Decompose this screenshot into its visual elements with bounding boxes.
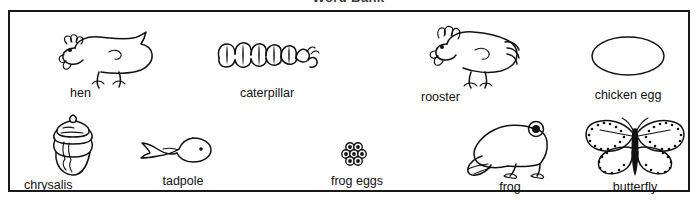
butterfly-icon [570,116,697,180]
word-bank-item-rooster[interactable]: rooster [405,22,545,108]
tadpole-icon [118,130,248,168]
word-bank-worksheet: Word Bank [0,0,697,202]
word-bank-box: hen [8,10,690,192]
word-bank-item-butterfly[interactable]: butterfly [570,116,697,200]
frog-eggs-icon [292,142,422,168]
chrysalis-icon [18,112,128,178]
word-bank-label-chicken-egg: chicken egg [558,88,697,102]
chicken-egg-icon [558,34,697,78]
word-bank-label-frog-eggs: frog eggs [292,174,422,188]
word-bank-item-chicken-egg[interactable]: chicken egg [558,34,697,104]
frog-icon [450,116,570,182]
word-bank-item-tadpole[interactable]: tadpole [118,130,248,200]
hen-icon [32,28,182,84]
word-bank-label-caterpillar: caterpillar [192,86,342,100]
word-bank-label-rooster: rooster [405,90,561,104]
word-bank-item-frog[interactable]: frog [450,116,570,200]
word-bank-label-frog: frog [450,180,570,194]
rooster-icon [405,22,545,90]
caterpillar-icon [192,36,342,74]
word-bank-item-chrysalis[interactable]: chrysalis [18,112,128,200]
word-bank-label-butterfly: butterfly [570,180,697,194]
word-bank-item-hen[interactable]: hen [32,28,182,106]
page-title: Word Bank [0,0,697,5]
word-bank-label-tadpole: tadpole [118,174,248,188]
word-bank-item-caterpillar[interactable]: caterpillar [192,36,342,106]
word-bank-label-chrysalis: chrysalis [18,178,134,192]
word-bank-item-frog-eggs[interactable]: frog eggs [292,142,422,200]
